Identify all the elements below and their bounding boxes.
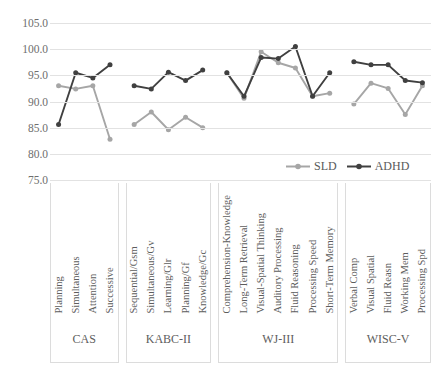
gridline xyxy=(50,128,431,129)
category-label: Planning/Gf xyxy=(180,262,191,313)
series-line-sld xyxy=(59,86,110,139)
category-label: Planning xyxy=(53,276,64,313)
gridline xyxy=(50,102,431,103)
category-panel-wj-iii: Comprehension-KnowledgeLong-Term Retriev… xyxy=(218,183,338,317)
group-label-band: CASKABC-IIWJ-IIIWISC-V xyxy=(50,317,431,363)
gridline xyxy=(50,154,431,155)
data-point-adhd xyxy=(403,78,408,83)
category-label: Short-Term Memory xyxy=(324,226,335,313)
data-point-sld xyxy=(132,122,137,127)
data-point-sld xyxy=(149,109,154,114)
data-point-adhd xyxy=(259,55,264,60)
y-axis-tick-label: 100.0 xyxy=(4,44,48,55)
y-axis: 105.0100.095.090.085.080.075.0 xyxy=(0,0,48,371)
y-axis-tick-label: 85.0 xyxy=(4,122,48,133)
group-label-kabc-ii: KABC-II xyxy=(126,317,212,363)
category-label: Working Mem xyxy=(400,252,411,313)
data-point-sld xyxy=(108,137,113,142)
legend-label: ADHD xyxy=(375,160,410,173)
data-point-sld xyxy=(90,83,95,88)
legend-item-adhd: ADHD xyxy=(346,160,410,173)
data-point-adhd xyxy=(310,94,315,99)
category-label: Visual Spatial xyxy=(365,254,376,313)
group-label-cas: CAS xyxy=(50,317,119,363)
category-label: Successive xyxy=(105,267,116,313)
gridline xyxy=(50,180,431,181)
legend: SLDADHD xyxy=(285,160,409,173)
data-point-sld xyxy=(327,91,332,96)
category-label: Verbal Comp xyxy=(348,257,359,313)
category-panel-wisc-v: Verbal CompVisual SpatialFluid ReasnWork… xyxy=(345,183,431,317)
category-label: Fluid Reasoning xyxy=(290,244,301,313)
category-label: Processing Speed xyxy=(307,239,318,313)
data-point-adhd xyxy=(200,68,205,73)
data-point-adhd xyxy=(108,62,113,67)
category-panel-cas: PlanningSimultaneousAttentionSuccessive xyxy=(50,183,119,317)
data-point-sld xyxy=(369,81,374,86)
category-label: Fluid Reasn xyxy=(383,263,394,313)
gridline xyxy=(50,23,431,24)
data-point-sld xyxy=(56,83,61,88)
category-label: Visual-Spatial Thinking xyxy=(256,213,267,313)
category-label: Learning/Glr xyxy=(163,258,174,313)
data-point-adhd xyxy=(351,59,356,64)
legend-swatch-adhd xyxy=(346,160,372,173)
data-point-adhd xyxy=(420,80,425,85)
category-label: Processing Spd xyxy=(417,249,428,313)
data-point-sld xyxy=(386,86,391,91)
line-chart: 105.0100.095.090.085.080.075.0 PlanningS… xyxy=(0,0,435,371)
plot-area xyxy=(50,23,431,180)
legend-label: SLD xyxy=(314,160,337,173)
category-panel-kabc-ii: Sequential/GsmSimultaneous/GvLearning/Gl… xyxy=(126,183,212,317)
y-axis-tick-label: 95.0 xyxy=(4,70,48,81)
data-point-adhd xyxy=(166,70,171,75)
data-point-adhd xyxy=(149,86,154,91)
category-label: Simultaneous xyxy=(70,256,81,313)
data-point-adhd xyxy=(132,83,137,88)
y-axis-tick-label: 80.0 xyxy=(4,148,48,159)
group-label-wisc-v: WISC-V xyxy=(345,317,431,363)
legend-swatch-sld xyxy=(285,160,311,173)
data-point-adhd xyxy=(183,78,188,83)
series-line-adhd xyxy=(227,47,330,97)
group-label-wj-iii: WJ-III xyxy=(218,317,338,363)
data-point-adhd xyxy=(386,62,391,67)
data-point-sld xyxy=(73,86,78,91)
category-label: Sequential/Gsm xyxy=(129,246,140,313)
y-axis-tick-label: 105.0 xyxy=(4,18,48,29)
category-label: Simultaneous/Gv xyxy=(146,240,157,313)
y-axis-tick-label: 90.0 xyxy=(4,96,48,107)
data-point-sld xyxy=(293,66,298,71)
data-point-adhd xyxy=(56,122,61,127)
data-point-adhd xyxy=(242,94,247,99)
data-point-sld xyxy=(183,115,188,120)
data-point-adhd xyxy=(276,56,281,61)
category-label-band: PlanningSimultaneousAttentionSuccessiveS… xyxy=(50,183,431,317)
data-point-adhd xyxy=(369,62,374,67)
y-axis-tick-label: 75.0 xyxy=(4,175,48,186)
category-label: Knowledge/Gc xyxy=(197,249,208,313)
category-label: Comprehension-Knowledge xyxy=(221,195,232,313)
data-point-sld xyxy=(403,112,408,117)
category-label: Long-Term Retrieval xyxy=(238,224,249,313)
gridline xyxy=(50,49,431,50)
legend-item-sld: SLD xyxy=(285,160,337,173)
category-label: Auditory Processing xyxy=(273,227,284,313)
gridline xyxy=(50,75,431,76)
category-label: Attention xyxy=(87,273,98,313)
